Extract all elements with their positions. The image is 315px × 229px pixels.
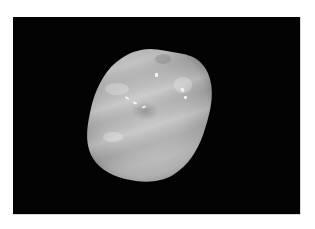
tooth-image	[13, 17, 301, 215]
specimen-photo	[13, 17, 301, 215]
